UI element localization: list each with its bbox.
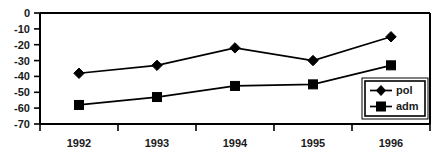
y-tick-label: -60 xyxy=(14,102,30,114)
y-tick-label: -10 xyxy=(14,23,30,35)
legend-label-pol: pol xyxy=(396,84,413,96)
square-marker-icon xyxy=(153,93,162,102)
square-marker-icon xyxy=(75,100,84,109)
y-tick-label: 0 xyxy=(24,7,30,19)
square-marker-icon xyxy=(309,80,318,89)
x-tick-label: 1995 xyxy=(301,137,325,149)
legend-label-adm: adm xyxy=(396,100,419,112)
y-tick-label: -30 xyxy=(14,55,30,67)
y-tick-label: -40 xyxy=(14,70,30,82)
chart-canvas: 0 -10 -20 -30 -40 -50 -60 -70 1992 1993 … xyxy=(0,0,442,157)
x-tick-label: 1996 xyxy=(379,137,403,149)
x-tick-label: 1993 xyxy=(145,137,169,149)
y-tick-label: -50 xyxy=(14,86,30,98)
chart-legend: pol adm xyxy=(362,78,428,119)
x-tick-label: 1992 xyxy=(67,137,91,149)
square-marker-icon xyxy=(231,81,240,90)
y-tick-label: -70 xyxy=(14,118,30,130)
square-marker-icon xyxy=(377,102,386,111)
square-marker-icon xyxy=(387,61,396,70)
x-tick-label: 1994 xyxy=(223,137,248,149)
y-tick-label: -20 xyxy=(14,39,30,51)
line-chart: 0 -10 -20 -30 -40 -50 -60 -70 1992 1993 … xyxy=(0,0,442,157)
